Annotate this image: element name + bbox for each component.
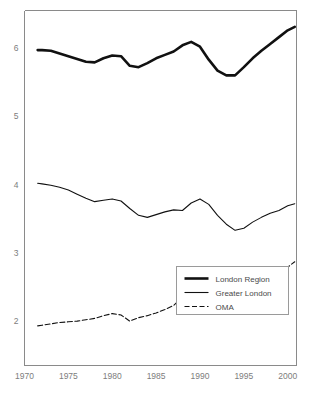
x-tick-label: 1990 bbox=[191, 371, 210, 381]
x-tick-label: 1975 bbox=[59, 371, 78, 381]
x-tick-label: 1995 bbox=[234, 371, 253, 381]
x-tick-label: 1970 bbox=[15, 371, 34, 381]
legend-label: OMA bbox=[216, 303, 235, 312]
y-tick-label: 5 bbox=[14, 111, 19, 121]
chart-figure: 23456 1970197519801985199019952000 Londo… bbox=[0, 0, 313, 398]
y-axis-tick-labels: 23456 bbox=[14, 43, 19, 326]
legend-label: Greater London bbox=[216, 289, 272, 298]
y-tick-label: 3 bbox=[14, 248, 19, 258]
series-line bbox=[38, 27, 295, 75]
y-tick-label: 2 bbox=[14, 316, 19, 326]
line-chart: 23456 1970197519801985199019952000 Londo… bbox=[0, 0, 313, 398]
x-tick-label: 2000 bbox=[278, 371, 297, 381]
legend-label: London Region bbox=[216, 275, 270, 284]
y-tick-label: 4 bbox=[14, 180, 19, 190]
series-line bbox=[38, 183, 295, 230]
x-axis-tick-labels: 1970197519801985199019952000 bbox=[15, 371, 297, 381]
chart-legend: London RegionGreater LondonOMA bbox=[177, 267, 289, 315]
x-tick-label: 1985 bbox=[147, 371, 166, 381]
y-tick-label: 6 bbox=[14, 43, 19, 53]
x-tick-label: 1980 bbox=[103, 371, 122, 381]
